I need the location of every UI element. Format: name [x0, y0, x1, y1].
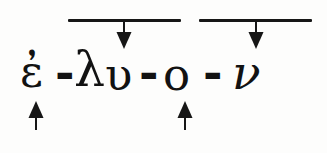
figure-canvas: ἐ - λ υ - ο - ν: [0, 0, 327, 153]
up-arrow-1: [27, 100, 45, 130]
segment-augment-epsilon: ἐ: [20, 50, 44, 94]
hyphen-3: -: [203, 48, 223, 95]
segment-root-upsilon: υ: [105, 52, 132, 97]
word-line: ἐ - λ υ - ο - ν: [0, 44, 327, 106]
segment-ending-nu: ν: [232, 49, 261, 96]
hyphen-2: -: [139, 48, 159, 95]
segment-thematic-vowel-omicron: ο: [163, 52, 190, 97]
segment-root-lambda: λ: [74, 45, 105, 94]
hyphen-1: -: [55, 48, 75, 95]
up-arrow-2: [176, 100, 194, 130]
